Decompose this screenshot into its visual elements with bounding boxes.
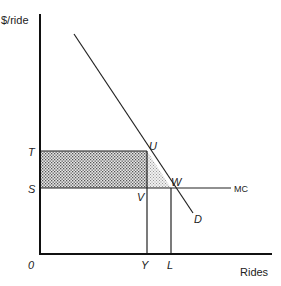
economics-diagram: $/ride Rides 0 T S Y L U V W D MC [0, 0, 281, 286]
x-axis-label: Rides [240, 266, 269, 278]
y-axis-label: $/ride [1, 14, 29, 26]
demand-label: D [194, 213, 202, 225]
diagram-canvas: $/ride Rides 0 T S Y L U V W D MC [0, 0, 281, 286]
quantity-label-y: Y [141, 259, 149, 271]
quantity-label-l: L [167, 259, 173, 271]
shaded-triangle-uvw [147, 151, 171, 188]
point-label-u: U [149, 140, 157, 152]
point-label-w: W [171, 176, 183, 188]
shaded-rectangle-tuvs [40, 151, 147, 188]
mc-label: MC [234, 184, 248, 194]
origin-label: 0 [28, 259, 35, 271]
point-label-v: V [137, 191, 146, 203]
price-label-t: T [28, 146, 36, 158]
price-label-s: S [28, 183, 36, 195]
